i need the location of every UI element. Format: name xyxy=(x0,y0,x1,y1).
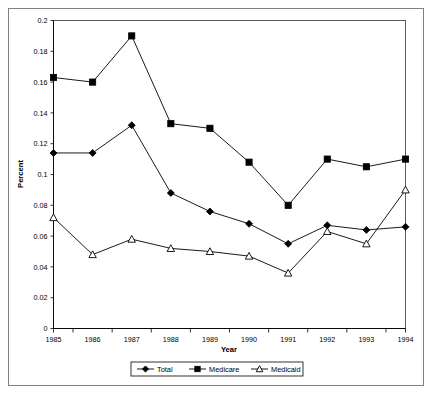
y-axis-tick-label: 0.2 xyxy=(38,16,48,25)
x-axis-tick-label: 1985 xyxy=(46,335,62,344)
data-point-square xyxy=(50,74,56,80)
data-point-square xyxy=(363,164,369,170)
data-point-square xyxy=(90,79,96,85)
x-axis-tick-label: 1993 xyxy=(358,335,374,344)
y-axis: 00.020.040.060.080.10.120.140.160.180.2 xyxy=(34,16,54,333)
x-axis-tick-label: 1989 xyxy=(202,335,218,344)
x-axis-title: Year xyxy=(221,345,237,354)
y-axis-tick-label: 0.18 xyxy=(34,47,48,56)
x-axis-tick-label: 1988 xyxy=(163,335,179,344)
data-point-square xyxy=(246,159,252,165)
data-point-square xyxy=(402,156,408,162)
y-axis-tick-label: 0.1 xyxy=(38,170,48,179)
y-axis-title: Percent xyxy=(16,160,25,188)
data-point-square xyxy=(195,366,200,371)
y-axis-tick-label: 0.06 xyxy=(34,232,48,241)
y-axis-tick-label: 0 xyxy=(44,324,48,333)
plot-area xyxy=(54,21,406,329)
chart-legend: TotalMedicareMedicaid xyxy=(131,362,303,376)
data-point-square xyxy=(168,121,174,127)
legend-label: Total xyxy=(157,365,173,374)
legend-label: Medicare xyxy=(209,365,239,374)
x-axis-tick-label: 1994 xyxy=(398,335,414,344)
data-point-square xyxy=(285,202,291,208)
x-axis: 1985198619871988198919901991199219931994 xyxy=(46,329,414,344)
data-point-square xyxy=(207,125,213,131)
data-point-square xyxy=(129,33,135,39)
y-axis-tick-label: 0.08 xyxy=(34,201,48,210)
y-axis-tick-label: 0.16 xyxy=(34,78,48,87)
y-axis-tick-label: 0.14 xyxy=(34,109,48,118)
y-axis-tick-label: 0.12 xyxy=(34,139,48,148)
x-axis-tick-label: 1992 xyxy=(319,335,335,344)
data-point-square xyxy=(324,156,330,162)
legend-label: Medicaid xyxy=(271,365,301,374)
x-axis-tick-label: 1991 xyxy=(280,335,296,344)
chart-canvas: 00.020.040.060.080.10.120.140.160.180.2 … xyxy=(0,0,432,394)
x-axis-tick-label: 1987 xyxy=(124,335,140,344)
line-chart: 00.020.040.060.080.10.120.140.160.180.2 … xyxy=(0,0,432,394)
x-axis-tick-label: 1986 xyxy=(85,335,101,344)
y-axis-tick-label: 0.04 xyxy=(34,263,48,272)
x-axis-tick-label: 1990 xyxy=(241,335,257,344)
y-axis-tick-label: 0.02 xyxy=(34,293,48,302)
